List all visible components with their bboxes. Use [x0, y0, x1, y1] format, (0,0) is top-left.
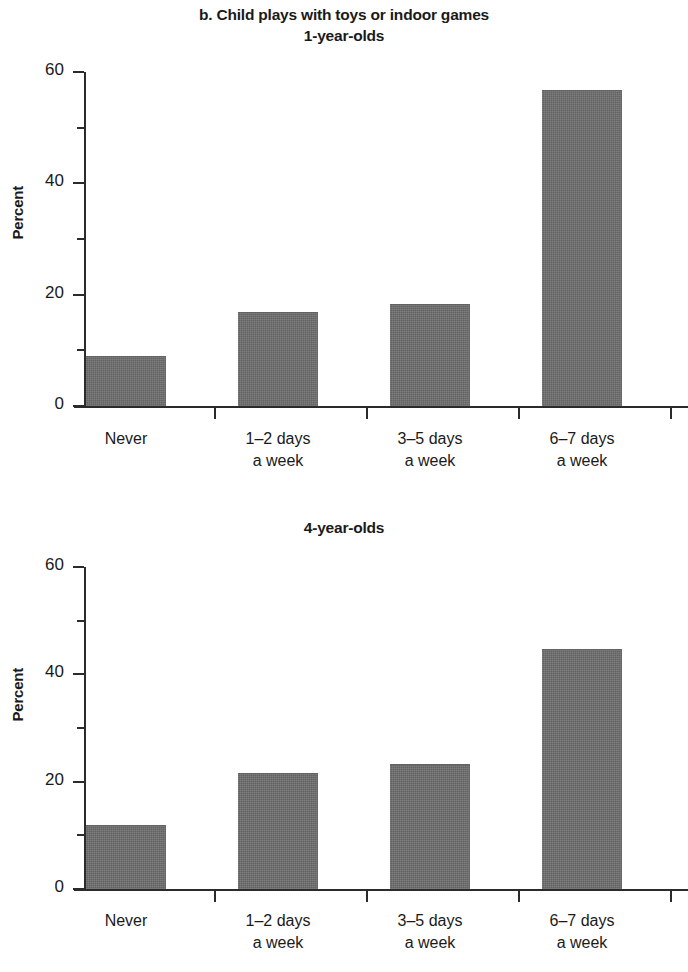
y-tick-20: 20 [73, 294, 84, 296]
y-minor-tick-10 [77, 349, 84, 351]
y-axis-label-panel-1: Percent [9, 214, 26, 240]
y-tick-0: 0 [73, 888, 84, 890]
x-axis-category-label: 6–7 days a week [512, 910, 652, 953]
x-tick-3 [518, 408, 520, 419]
bar [86, 356, 166, 406]
bar [390, 764, 470, 890]
y-tick-20: 20 [73, 781, 84, 783]
x-axis-line-panel-1 [74, 406, 688, 408]
plot-area-panel-2: 0204060 [84, 567, 688, 891]
figure-container: b. Child plays with toys or indoor games… [0, 0, 688, 972]
panel-1-title: 1-year-olds [0, 27, 688, 45]
x-tick-4 [670, 408, 672, 419]
x-axis-category-label: 6–7 days a week [512, 428, 652, 471]
y-tick-60: 60 [73, 566, 84, 568]
bar [542, 90, 622, 406]
x-tick-1 [214, 891, 216, 902]
y-tick-40: 40 [73, 673, 84, 675]
y-minor-tick-30 [77, 238, 84, 240]
y-tick-40: 40 [73, 182, 84, 184]
y-tick-label-20: 20 [24, 770, 64, 790]
bar [86, 825, 166, 889]
bar [238, 312, 318, 406]
y-minor-tick-30 [77, 727, 84, 729]
x-tick-1 [214, 408, 216, 419]
y-minor-tick-50 [77, 127, 84, 129]
panel-2-title: 4-year-olds [0, 519, 688, 537]
bar-chart-1-year-olds: Percent 0204060 Never1–2 days a week3–5 … [0, 50, 688, 510]
x-axis-category-label: 3–5 days a week [360, 910, 500, 953]
y-tick-label-40: 40 [24, 171, 64, 191]
x-tick-3 [518, 891, 520, 902]
bar-series-panel-1 [84, 72, 688, 406]
x-axis-category-label: 1–2 days a week [208, 428, 348, 471]
y-tick-label-0: 0 [24, 877, 64, 897]
bar [238, 773, 318, 889]
x-axis-line-panel-2 [74, 889, 688, 891]
x-tick-2 [366, 408, 368, 419]
x-axis-category-label: Never [56, 910, 196, 932]
bar [390, 304, 470, 406]
y-tick-0: 0 [73, 405, 84, 407]
y-tick-label-20: 20 [24, 283, 64, 303]
y-tick-60: 60 [73, 71, 84, 73]
x-tick-4 [670, 891, 672, 902]
bar-series-panel-2 [84, 567, 688, 889]
bar-chart-4-year-olds: Percent 0204060 Never1–2 days a week3–5 … [0, 538, 688, 972]
y-minor-tick-50 [77, 620, 84, 622]
y-axis-label-panel-2: Percent [9, 696, 26, 722]
plot-area-panel-1: 0204060 [84, 72, 688, 408]
y-tick-label-0: 0 [24, 394, 64, 414]
x-axis-category-label: 3–5 days a week [360, 428, 500, 471]
figure-title: b. Child plays with toys or indoor games [0, 6, 688, 24]
bar [542, 649, 622, 889]
y-minor-tick-10 [77, 834, 84, 836]
x-axis-category-label: 1–2 days a week [208, 910, 348, 953]
x-tick-2 [366, 891, 368, 902]
y-tick-label-40: 40 [24, 662, 64, 682]
y-tick-label-60: 60 [24, 555, 64, 575]
x-axis-category-label: Never [56, 428, 196, 450]
y-tick-label-60: 60 [24, 60, 64, 80]
